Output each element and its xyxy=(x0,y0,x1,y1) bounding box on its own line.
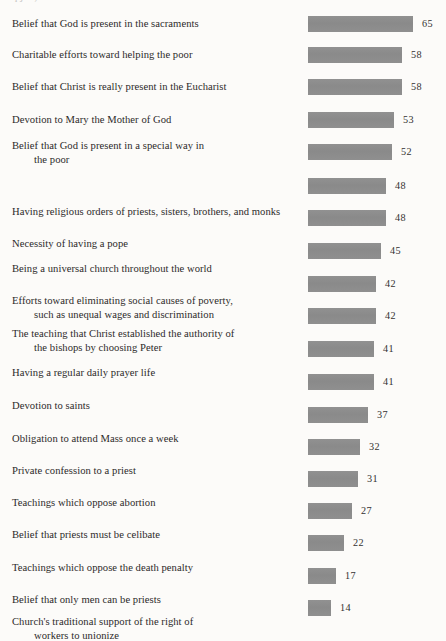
bar-category-label: Devotion to saints xyxy=(12,399,304,413)
bar-category-label: Belief that God is present in the sacram… xyxy=(12,17,304,31)
bar-category-label: Obligation to attend Mass once a week xyxy=(12,432,304,446)
bar-category-label-line1: Devotion to Mary the Mother of God xyxy=(12,114,171,125)
bar-category-label: Belief that only men can be priests xyxy=(12,593,304,607)
bar xyxy=(308,47,402,63)
bar-value-label: 65 xyxy=(422,16,433,32)
bar-value-label: 58 xyxy=(411,79,422,95)
bar-category-label: Efforts toward eliminating social causes… xyxy=(12,294,304,322)
bar-value-label: 42 xyxy=(385,308,396,324)
bar-value-label: 31 xyxy=(367,471,378,487)
bar-value-label: 53 xyxy=(403,112,414,128)
bar xyxy=(308,308,376,324)
bar xyxy=(308,374,374,390)
bar-category-label: Church's traditional support of the righ… xyxy=(12,615,304,641)
bar-category-label: Being a universal church throughout the … xyxy=(12,262,304,276)
bar-category-label: Belief that God is present in a special … xyxy=(12,139,304,167)
bar xyxy=(308,439,360,455)
bar-category-label-line1: Belief that Christ is really present in … xyxy=(12,81,226,92)
bar xyxy=(308,79,402,95)
bar xyxy=(308,535,344,551)
bar-category-label-line1: Having a regular daily prayer life xyxy=(12,367,155,378)
bar-category-label-line1: Efforts toward eliminating social causes… xyxy=(12,295,233,306)
bar xyxy=(308,112,394,128)
bar-value-label: 41 xyxy=(383,341,394,357)
bar-category-label: Teachings which oppose abortion xyxy=(12,496,304,510)
bar-category-label-line1: Belief that only men can be priests xyxy=(12,594,161,605)
bar-category-label-line1: Belief that priests must be celibate xyxy=(12,529,160,540)
bar-category-label-line1: Charitable efforts toward helping the po… xyxy=(12,49,192,60)
bar-value-label: 45 xyxy=(390,243,401,259)
bar xyxy=(308,471,358,487)
bar-value-label: 14 xyxy=(340,600,351,616)
bar-category-label-line1: Teachings which oppose abortion xyxy=(12,497,156,508)
bar-value-label: 42 xyxy=(385,276,396,292)
bar-category-label-line2: such as unequal wages and discrimination xyxy=(12,308,304,322)
bar-value-label: 48 xyxy=(395,178,406,194)
bar-category-label: Devotion to Mary the Mother of God xyxy=(12,113,304,127)
bar xyxy=(308,568,336,584)
bar-category-label: Having a regular daily prayer life xyxy=(12,366,304,380)
bar-value-label: 32 xyxy=(369,439,380,455)
bar-category-label-line1: Devotion to saints xyxy=(12,400,90,411)
bar-value-label: 41 xyxy=(383,374,394,390)
bar xyxy=(308,16,413,32)
bar xyxy=(308,600,331,616)
bar-value-label: 58 xyxy=(411,47,422,63)
bar-category-label: Charitable efforts toward helping the po… xyxy=(12,48,304,62)
bar-category-label-line2: the bishops by choosing Peter xyxy=(12,341,304,355)
bar-category-label-line2: workers to unionize xyxy=(12,629,304,641)
bar-category-label: Having religious orders of priests, sist… xyxy=(12,205,304,219)
bar xyxy=(308,503,352,519)
bar-category-label-line2: the poor xyxy=(12,153,304,167)
bar xyxy=(308,276,376,292)
bar-category-label: Necessity of having a pope xyxy=(12,237,304,251)
bar-category-label: Private confession to a priest xyxy=(12,464,304,478)
bar-category-label-line1: Being a universal church throughout the … xyxy=(12,263,212,274)
bar-chart-page: q j o , 33 Belief that God is present in… xyxy=(0,0,446,641)
bar xyxy=(308,341,374,357)
bar-category-label: Belief that priests must be celibate xyxy=(12,528,304,542)
bar-category-label-line1: Having religious orders of priests, sist… xyxy=(12,206,280,217)
bar-category-label-line1: Church's traditional support of the righ… xyxy=(12,616,193,627)
bar-category-label-line1: Teachings which oppose the death penalty xyxy=(12,562,193,573)
bar-value-label: 48 xyxy=(395,210,406,226)
bar-category-label: The teaching that Christ established the… xyxy=(12,327,304,355)
bar xyxy=(308,210,386,226)
bar xyxy=(308,178,386,194)
bar-category-label-line1: Private confession to a priest xyxy=(12,465,136,476)
bar xyxy=(308,407,368,423)
bar-category-label: Belief that Christ is really present in … xyxy=(12,80,304,94)
bar-value-label: 17 xyxy=(345,568,356,584)
bar-category-label-line1: Belief that God is present in a special … xyxy=(12,140,204,151)
bar-value-label: 22 xyxy=(353,535,364,551)
bar-category-label-line1: Obligation to attend Mass once a week xyxy=(12,433,179,444)
bar-value-label: 37 xyxy=(377,407,388,423)
bar-value-label: 52 xyxy=(401,144,412,160)
clipped-header-text: q j o , 33 xyxy=(12,0,432,3)
bar-category-label-line1: Belief that God is present in the sacram… xyxy=(12,18,199,29)
bar-value-label: 27 xyxy=(361,503,372,519)
bar xyxy=(308,144,392,160)
bar-category-label-line1: Necessity of having a pope xyxy=(12,238,128,249)
bar xyxy=(308,243,381,259)
bar-category-label: Teachings which oppose the death penalty xyxy=(12,561,304,575)
bar-category-label-line1: The teaching that Christ established the… xyxy=(12,328,234,339)
